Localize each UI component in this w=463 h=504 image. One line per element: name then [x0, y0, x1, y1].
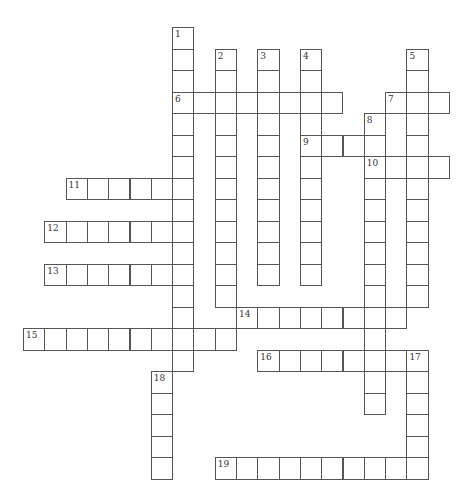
crossword-cell[interactable]	[215, 221, 237, 244]
crossword-cell[interactable]	[406, 242, 428, 265]
crossword-cell[interactable]: 6	[172, 92, 194, 115]
crossword-cell[interactable]	[215, 242, 237, 265]
crossword-cell[interactable]	[279, 92, 301, 115]
crossword-cell[interactable]	[215, 70, 237, 93]
crossword-cell[interactable]	[364, 307, 386, 330]
crossword-cell[interactable]	[172, 307, 194, 330]
crossword-cell[interactable]: 10	[364, 156, 386, 179]
crossword-cell[interactable]	[406, 156, 428, 179]
crossword-cell[interactable]: 11	[66, 178, 88, 201]
crossword-cell[interactable]	[151, 221, 173, 244]
crossword-cell[interactable]	[172, 199, 194, 222]
crossword-cell[interactable]: 3	[257, 49, 279, 72]
crossword-cell[interactable]	[87, 264, 109, 287]
crossword-cell[interactable]	[151, 328, 173, 351]
crossword-cell[interactable]	[321, 307, 343, 330]
crossword-cell[interactable]	[172, 49, 194, 72]
crossword-cell[interactable]	[406, 393, 428, 416]
crossword-cell[interactable]: 16	[257, 350, 279, 373]
crossword-cell[interactable]	[406, 436, 428, 459]
crossword-cell[interactable]	[66, 328, 88, 351]
crossword-cell[interactable]: 8	[364, 113, 386, 136]
crossword-cell[interactable]	[406, 414, 428, 437]
crossword-cell[interactable]	[364, 264, 386, 287]
crossword-cell[interactable]	[364, 199, 386, 222]
crossword-cell[interactable]	[108, 178, 130, 201]
crossword-cell[interactable]	[406, 371, 428, 394]
crossword-cell[interactable]	[406, 70, 428, 93]
crossword-cell[interactable]	[300, 156, 322, 179]
crossword-cell[interactable]: 17	[406, 350, 428, 373]
crossword-cell[interactable]	[364, 221, 386, 244]
crossword-cell[interactable]	[300, 307, 322, 330]
crossword-cell[interactable]: 14	[236, 307, 258, 330]
crossword-cell[interactable]	[108, 328, 130, 351]
crossword-cell[interactable]	[343, 135, 365, 158]
crossword-cell[interactable]	[172, 113, 194, 136]
crossword-cell[interactable]	[406, 113, 428, 136]
crossword-cell[interactable]	[321, 92, 343, 115]
crossword-cell[interactable]	[44, 328, 66, 351]
crossword-cell[interactable]	[215, 135, 237, 158]
crossword-cell[interactable]	[385, 156, 407, 179]
crossword-cell[interactable]	[172, 135, 194, 158]
crossword-cell[interactable]	[406, 199, 428, 222]
crossword-cell[interactable]	[428, 92, 450, 115]
crossword-cell[interactable]	[130, 328, 152, 351]
crossword-cell[interactable]	[300, 92, 322, 115]
crossword-cell[interactable]	[300, 264, 322, 287]
crossword-cell[interactable]	[172, 70, 194, 93]
crossword-cell[interactable]	[428, 156, 450, 179]
crossword-cell[interactable]	[364, 135, 386, 158]
crossword-cell[interactable]	[406, 178, 428, 201]
crossword-cell[interactable]	[215, 113, 237, 136]
crossword-cell[interactable]	[151, 393, 173, 416]
crossword-cell[interactable]	[406, 221, 428, 244]
crossword-cell[interactable]	[130, 178, 152, 201]
crossword-cell[interactable]	[130, 221, 152, 244]
crossword-cell[interactable]	[406, 92, 428, 115]
crossword-cell[interactable]	[257, 113, 279, 136]
crossword-cell[interactable]	[151, 178, 173, 201]
crossword-cell[interactable]	[193, 328, 215, 351]
crossword-cell[interactable]	[172, 178, 194, 201]
crossword-cell[interactable]	[257, 307, 279, 330]
crossword-cell[interactable]	[300, 242, 322, 265]
crossword-cell[interactable]	[300, 457, 322, 480]
crossword-cell[interactable]	[364, 393, 386, 416]
crossword-cell[interactable]	[300, 70, 322, 93]
crossword-cell[interactable]	[385, 350, 407, 373]
crossword-cell[interactable]	[257, 457, 279, 480]
crossword-cell[interactable]	[66, 264, 88, 287]
crossword-cell[interactable]	[406, 285, 428, 308]
crossword-cell[interactable]	[257, 135, 279, 158]
crossword-cell[interactable]	[151, 264, 173, 287]
crossword-cell[interactable]	[279, 457, 301, 480]
crossword-cell[interactable]	[172, 285, 194, 308]
crossword-cell[interactable]: 7	[385, 92, 407, 115]
crossword-cell[interactable]	[108, 264, 130, 287]
crossword-cell[interactable]: 15	[23, 328, 45, 351]
crossword-cell[interactable]	[172, 350, 194, 373]
crossword-cell[interactable]	[130, 264, 152, 287]
crossword-cell[interactable]	[193, 92, 215, 115]
crossword-cell[interactable]	[300, 350, 322, 373]
crossword-cell[interactable]	[87, 328, 109, 351]
crossword-cell[interactable]	[300, 178, 322, 201]
crossword-cell[interactable]	[385, 457, 407, 480]
crossword-cell[interactable]	[172, 221, 194, 244]
crossword-cell[interactable]	[364, 371, 386, 394]
crossword-cell[interactable]	[257, 264, 279, 287]
crossword-cell[interactable]	[151, 436, 173, 459]
crossword-cell[interactable]	[257, 156, 279, 179]
crossword-cell[interactable]: 13	[44, 264, 66, 287]
crossword-cell[interactable]: 9	[300, 135, 322, 158]
crossword-cell[interactable]	[87, 178, 109, 201]
crossword-cell[interactable]	[257, 221, 279, 244]
crossword-cell[interactable]	[257, 199, 279, 222]
crossword-cell[interactable]	[321, 350, 343, 373]
crossword-cell[interactable]	[343, 350, 365, 373]
crossword-cell[interactable]	[215, 199, 237, 222]
crossword-cell[interactable]	[321, 135, 343, 158]
crossword-cell[interactable]	[406, 264, 428, 287]
